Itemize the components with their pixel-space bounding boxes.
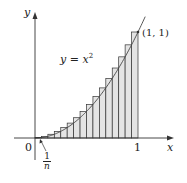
- y-axis-label: y: [24, 7, 30, 18]
- origin-label: 0: [25, 142, 32, 153]
- point-one-one: [137, 31, 140, 34]
- curve-equation-label: y = x2: [60, 53, 93, 65]
- riemann-rectangle: [112, 68, 118, 138]
- fraction-pointer-line: [41, 141, 46, 151]
- riemann-rectangle: [125, 45, 131, 138]
- point-label: (1, 1): [142, 28, 169, 38]
- riemann-rectangle: [132, 32, 138, 138]
- riemann-rectangle: [106, 78, 112, 138]
- riemann-rectangle: [54, 131, 60, 138]
- fraction-denominator: n: [43, 162, 51, 171]
- x-axis-arrow-icon: [167, 136, 174, 141]
- riemann-rectangle: [80, 112, 86, 139]
- curve-equation-base: y = x: [60, 53, 89, 66]
- y-axis-arrow-icon: [33, 12, 38, 19]
- x-one-label: 1: [134, 142, 141, 153]
- curve-equation-exponent: 2: [89, 52, 93, 60]
- fraction-label: 1 n: [43, 152, 51, 171]
- fraction-pointer-arrow-icon: [40, 139, 43, 144]
- riemann-rectangle: [87, 104, 93, 138]
- x-axis-label: x: [167, 142, 173, 153]
- riemann-rectangle: [119, 57, 125, 138]
